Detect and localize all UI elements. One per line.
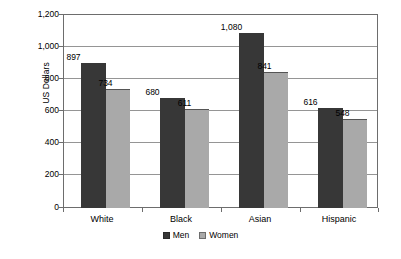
- bar-men-asian[interactable]: [239, 33, 264, 208]
- legend-label-men: Men: [173, 231, 190, 240]
- chart-legend: Men Women: [0, 231, 401, 240]
- x-tick-mark: [378, 208, 379, 212]
- y-tick-label: 1,200: [19, 10, 59, 19]
- x-tick-mark: [300, 208, 301, 212]
- bar-men-black[interactable]: [160, 98, 185, 208]
- value-label-men-hispanic: 616: [297, 98, 324, 107]
- bar-women-white[interactable]: [106, 89, 130, 208]
- y-tick-label: 800: [19, 74, 59, 83]
- y-tick-label: 200: [19, 170, 59, 179]
- bar-women-black[interactable]: [185, 109, 209, 208]
- y-tick-label: 600: [19, 106, 59, 115]
- x-label-black: Black: [146, 214, 216, 225]
- x-label-hispanic: Hispanic: [304, 214, 374, 225]
- bar-chart: US Dollars 1,200 1,000 800 600 400 200 0…: [0, 0, 401, 259]
- value-label-women-asian: 841: [251, 62, 278, 71]
- value-label-men-white: 897: [60, 53, 87, 62]
- x-tick-mark: [142, 208, 143, 212]
- x-tick-mark: [63, 208, 64, 212]
- x-tick-mark: [221, 208, 222, 212]
- bar-women-hispanic[interactable]: [343, 119, 367, 208]
- bar-men-hispanic[interactable]: [318, 108, 343, 208]
- y-tick-label: 0: [19, 203, 59, 212]
- y-tick-label: 1,000: [19, 42, 59, 51]
- value-label-women-black: 611: [171, 99, 198, 108]
- legend-label-women: Women: [209, 231, 238, 240]
- legend-swatch-men-icon: [163, 232, 170, 239]
- legend-item-men[interactable]: Men: [163, 231, 190, 240]
- legend-swatch-women-icon: [199, 232, 206, 239]
- value-label-women-hispanic: 548: [329, 109, 356, 118]
- y-tick-label: 400: [19, 138, 59, 147]
- bar-women-asian[interactable]: [264, 72, 288, 208]
- x-label-asian: Asian: [225, 214, 295, 225]
- value-label-men-asian: 1,080: [215, 23, 248, 32]
- x-label-white: White: [67, 214, 137, 225]
- value-label-women-white: 734: [92, 79, 119, 88]
- legend-item-women[interactable]: Women: [199, 231, 238, 240]
- value-label-men-black: 680: [139, 88, 166, 97]
